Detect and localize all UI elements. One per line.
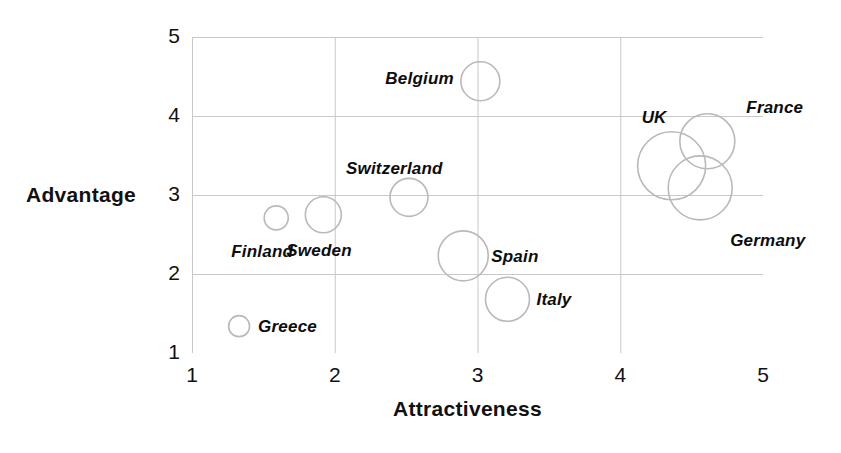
- x-tick-3: 3: [466, 363, 490, 387]
- bubble-label-sweden: Sweden: [286, 241, 351, 261]
- bubble-switzerland[interactable]: [390, 178, 428, 216]
- bubble-label-finland: Finland: [231, 242, 293, 262]
- y-tick-2: 2: [158, 261, 180, 285]
- y-tick-3: 3: [158, 182, 180, 206]
- bubble-label-greece: Greece: [258, 317, 317, 337]
- bubble-label-spain: Spain: [491, 247, 538, 267]
- bubble-chart: Advantage Attractiveness 12345 12345 Bel…: [0, 0, 841, 453]
- x-axis-title: Attractiveness: [393, 397, 542, 421]
- x-tick-1: 1: [180, 363, 204, 387]
- bubble-germany[interactable]: [668, 156, 732, 220]
- bubble-france[interactable]: [680, 114, 735, 169]
- bubble-label-italy: Italy: [536, 290, 571, 310]
- bubble-label-uk: UK: [642, 108, 667, 128]
- bubble-greece[interactable]: [229, 316, 250, 337]
- y-tick-4: 4: [158, 103, 180, 127]
- x-tick-4: 4: [608, 363, 632, 387]
- x-tick-2: 2: [323, 363, 347, 387]
- bubble-sweden[interactable]: [305, 197, 341, 233]
- bubble-label-germany: Germany: [730, 231, 805, 251]
- y-tick-1: 1: [158, 340, 180, 364]
- bubble-series: [192, 37, 763, 353]
- bubble-label-switzerland: Switzerland: [346, 159, 443, 179]
- bubble-label-france: France: [746, 98, 803, 118]
- bubble-italy[interactable]: [485, 277, 529, 321]
- bubble-spain[interactable]: [438, 231, 488, 281]
- bubble-belgium[interactable]: [461, 62, 500, 101]
- y-tick-5: 5: [158, 24, 180, 48]
- x-tick-5: 5: [751, 363, 775, 387]
- bubble-finland[interactable]: [264, 206, 288, 230]
- y-axis-title: Advantage: [26, 183, 136, 207]
- plot-area: [192, 37, 763, 353]
- bubble-label-belgium: Belgium: [385, 69, 453, 89]
